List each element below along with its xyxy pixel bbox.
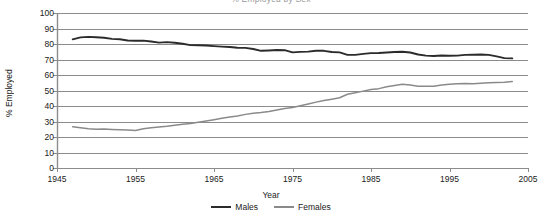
x-tick-label: 1945 <box>48 174 67 184</box>
series-line-males <box>73 37 513 59</box>
y-tick-label: 30 <box>22 117 54 126</box>
x-axis-title: Year <box>0 190 542 200</box>
y-tick-label: 50 <box>22 86 54 95</box>
y-tick-label: 10 <box>22 148 54 157</box>
y-tick-label: 80 <box>22 40 54 49</box>
y-tick-label: 20 <box>22 133 54 142</box>
x-tick-label: 1965 <box>205 174 224 184</box>
x-tick-label: 1975 <box>283 174 302 184</box>
y-axis-title: % Employed <box>2 48 16 138</box>
y-tick-label: 40 <box>22 102 54 111</box>
y-tick-label: 0 <box>22 164 54 173</box>
x-tick-label: 2005 <box>519 174 538 184</box>
chart-legend: MalesFemales <box>0 202 542 212</box>
employment-rate-line-chart: % Employed by Sex % Employed 01020304050… <box>0 0 542 215</box>
y-tick-label: 70 <box>22 55 54 64</box>
x-tick-label: 1995 <box>440 174 459 184</box>
legend-item-females[interactable]: Females <box>274 202 331 212</box>
gridlines <box>57 14 528 169</box>
y-tick-label: 100 <box>22 9 54 18</box>
x-tick-label: 1985 <box>362 174 381 184</box>
y-tick-label: 60 <box>22 71 54 80</box>
x-axis-tick-labels: 1945195519651975198519952005 <box>0 174 542 188</box>
x-tick-label: 1955 <box>126 174 145 184</box>
legend-label: Females <box>298 202 331 212</box>
chart-title-clipped: % Employed by Sex <box>0 0 542 4</box>
data-series-lines <box>73 37 513 131</box>
legend-line-swatch <box>211 206 231 208</box>
legend-label: Males <box>235 202 258 212</box>
legend-item-males[interactable]: Males <box>211 202 258 212</box>
legend-line-swatch <box>274 206 294 208</box>
y-tick-label: 90 <box>22 24 54 33</box>
